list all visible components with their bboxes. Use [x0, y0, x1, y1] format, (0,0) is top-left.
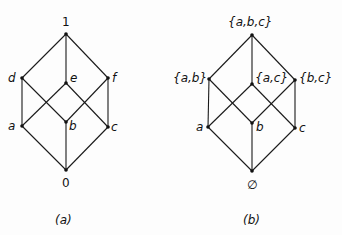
label-b-ab: {a,b} [173, 71, 207, 85]
edge-a-a-bottom [22, 126, 66, 170]
caption-a: (a) [55, 213, 72, 227]
edge-a-c-bottom [66, 127, 108, 170]
label-a-d: d [8, 71, 16, 85]
edge-a-top-d [22, 34, 66, 78]
node-b-bottom [250, 169, 254, 173]
node-b-top [250, 33, 254, 37]
node-a-e [64, 81, 68, 85]
node-a-a [20, 124, 24, 128]
label-b-b: b [256, 120, 264, 134]
node-a-c [106, 125, 110, 129]
label-b-abc: {a,b,c} [228, 15, 272, 29]
edge-b-bc-b [252, 80, 295, 123]
label-a-b: b [69, 119, 77, 133]
edges [22, 34, 295, 171]
edge-b-ac-a [208, 84, 252, 127]
edge-a-d-b [22, 78, 66, 122]
label-a-one: 1 [62, 15, 70, 29]
node-a-bottom [64, 168, 68, 172]
label-a-zero: 0 [62, 176, 70, 190]
label-b-bc: {b,c} [299, 71, 332, 85]
label-b-empty: ∅ [247, 178, 257, 192]
label-a-c: c [111, 120, 118, 134]
node-b-b [250, 121, 254, 125]
diagram-a-labels: 1 d e f a b c 0 (a) [8, 15, 118, 227]
label-b-a: a [196, 120, 203, 134]
node-b-ab [207, 77, 211, 81]
node-b-c [293, 126, 297, 130]
node-a-b [64, 120, 68, 124]
label-a-a: a [8, 119, 15, 133]
lattice-diagrams: 1 d e f a b c 0 (a) {a,b,c} {a,b} {a,c} … [0, 0, 342, 235]
label-b-c: c [299, 121, 306, 135]
node-a-top [64, 32, 68, 36]
edge-b-top-ab [209, 35, 252, 79]
label-a-e: e [70, 71, 77, 85]
node-a-f [106, 76, 110, 80]
diagram-b-labels: {a,b,c} {a,b} {a,c} {b,c} a b c ∅ (b) [173, 15, 332, 227]
label-a-f: f [112, 71, 118, 85]
caption-b: (b) [243, 213, 260, 227]
nodes [20, 32, 297, 173]
label-b-ac: {a,c} [255, 71, 288, 85]
node-b-ac [250, 82, 254, 86]
edge-b-ab-a [208, 79, 209, 127]
lattice-figure: 1 d e f a b c 0 (a) {a,b,c} {a,b} {a,c} … [0, 0, 342, 235]
node-b-bc [293, 78, 297, 82]
edge-b-ab-b [209, 79, 252, 123]
node-b-a [206, 125, 210, 129]
edge-b-a-bottom [208, 127, 252, 171]
node-a-d [20, 76, 24, 80]
edge-a-e-a [22, 83, 66, 126]
edge-b-c-bottom [252, 128, 295, 171]
